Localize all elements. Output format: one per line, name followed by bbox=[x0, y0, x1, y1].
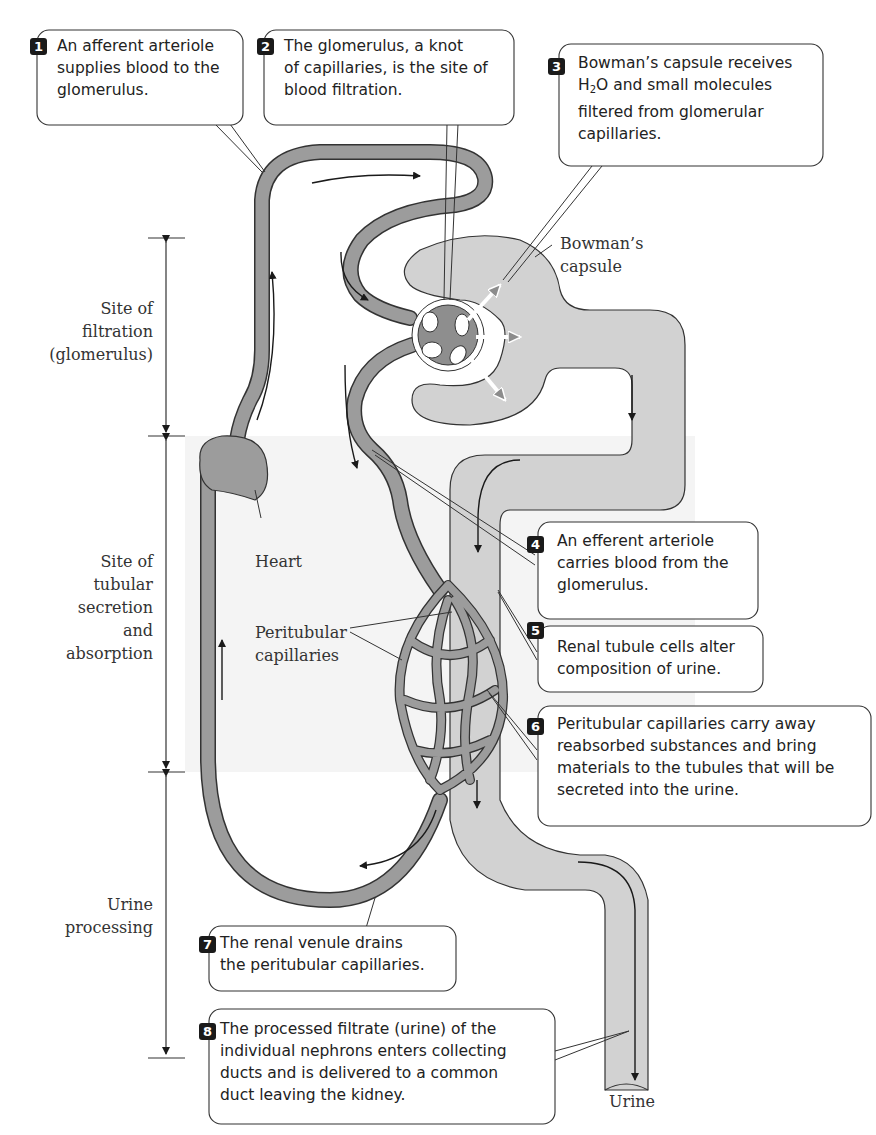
bowmans-label-line: capsule bbox=[560, 255, 643, 278]
callout-1-line: supplies blood to the bbox=[57, 57, 220, 79]
callout-6-line: materials to the tubules that will be bbox=[557, 757, 834, 779]
peritubular-label-line: Peritubular bbox=[255, 621, 347, 644]
callout-3-line-h2o: H2O and small molecules bbox=[578, 74, 792, 101]
callout-2: The glomerulus, a knot of capillaries, i… bbox=[284, 35, 488, 101]
region-line: absorption bbox=[66, 642, 153, 665]
region-line: and bbox=[66, 619, 153, 642]
callout-4-line: carries blood from the bbox=[557, 552, 729, 574]
callout-6-badge: 6 bbox=[527, 718, 544, 735]
callout-2-line: of capillaries, is the site of bbox=[284, 57, 488, 79]
callout-6-line: Peritubular capillaries carry away bbox=[557, 713, 834, 735]
region-line: (glomerulus) bbox=[49, 343, 153, 366]
heart-label: Heart bbox=[255, 550, 302, 573]
callout-3-line: filtered from glomerular bbox=[578, 101, 792, 123]
callout-7-line: the peritubular capillaries. bbox=[220, 954, 425, 976]
callout-8-line: duct leaving the kidney. bbox=[220, 1084, 507, 1106]
region-label-filtration: Site of filtration (glomerulus) bbox=[49, 297, 153, 366]
callout-2-badge: 2 bbox=[257, 38, 274, 55]
callout-8-line: ducts and is delivered to a common bbox=[220, 1062, 507, 1084]
callout-8: The processed filtrate (urine) of the in… bbox=[220, 1018, 507, 1106]
callout-3-line: capillaries. bbox=[578, 123, 792, 145]
callout-1-line: An afferent arteriole bbox=[57, 35, 220, 57]
callout-7-line: The renal venule drains bbox=[220, 932, 425, 954]
region-line: secretion bbox=[66, 596, 153, 619]
region-label-secretion: Site of tubular secretion and absorption bbox=[66, 550, 153, 665]
h2o-rest: O and small molecules bbox=[596, 76, 772, 94]
callout-2-line: blood filtration. bbox=[284, 79, 488, 101]
region-line: Urine bbox=[65, 893, 153, 916]
urine-label: Urine bbox=[609, 1090, 655, 1113]
callout-1-line: glomerulus. bbox=[57, 79, 220, 101]
callout-5-line: composition of urine. bbox=[557, 658, 735, 680]
callout-3-badge: 3 bbox=[548, 58, 565, 75]
callout-5-line: Renal tubule cells alter bbox=[557, 636, 735, 658]
callout-8-line: The processed filtrate (urine) of the bbox=[220, 1018, 507, 1040]
callout-8-line: individual nephrons enters collecting bbox=[220, 1040, 507, 1062]
nephron-diagram: 1 An afferent arteriole supplies blood t… bbox=[0, 0, 876, 1135]
callout-1-badge: 1 bbox=[30, 38, 47, 55]
callout-4: An efferent arteriole carries blood from… bbox=[557, 530, 729, 596]
callout-7: The renal venule drains the peritubular … bbox=[220, 932, 425, 976]
callout-6-line: reabsorbed substances and bring bbox=[557, 735, 834, 757]
region-label-urine: Urine processing bbox=[65, 893, 153, 939]
region-line: tubular bbox=[66, 573, 153, 596]
peritubular-label-line: capillaries bbox=[255, 644, 347, 667]
callout-6: Peritubular capillaries carry away reabs… bbox=[557, 713, 834, 801]
callout-5-badge: 5 bbox=[527, 622, 544, 639]
callout-3: Bowman’s capsule receives H2O and small … bbox=[578, 52, 792, 145]
callout-3-line: Bowman’s capsule receives bbox=[578, 52, 792, 74]
callout-5: Renal tubule cells alter composition of … bbox=[557, 636, 735, 680]
h2o-h: H bbox=[578, 76, 590, 94]
callout-4-badge: 4 bbox=[527, 536, 544, 553]
callout-2-line: The glomerulus, a knot bbox=[284, 35, 488, 57]
callout-7-badge: 7 bbox=[199, 936, 216, 953]
callout-4-line: glomerulus. bbox=[557, 574, 729, 596]
region-line: Site of bbox=[49, 297, 153, 320]
region-line: processing bbox=[65, 916, 153, 939]
callout-1: An afferent arteriole supplies blood to … bbox=[57, 35, 220, 101]
callout-8-badge: 8 bbox=[199, 1023, 216, 1040]
callout-4-line: An efferent arteriole bbox=[557, 530, 729, 552]
bowmans-label-line: Bowman’s bbox=[560, 232, 643, 255]
region-line: filtration bbox=[49, 320, 153, 343]
region-brackets bbox=[148, 238, 185, 1058]
bowmans-capsule-label: Bowman’s capsule bbox=[560, 232, 643, 278]
region-line: Site of bbox=[66, 550, 153, 573]
callout-6-line: secreted into the urine. bbox=[557, 779, 834, 801]
peritubular-capillaries-label: Peritubular capillaries bbox=[255, 621, 347, 667]
